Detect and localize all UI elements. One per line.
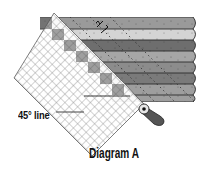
45-degree-line-label: 45° line (18, 109, 49, 121)
rotary-cutter-icon (139, 104, 164, 126)
diagram-caption: Diagram A (89, 145, 139, 161)
